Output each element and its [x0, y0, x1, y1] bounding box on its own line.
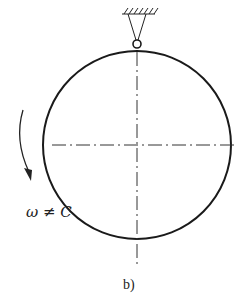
pin-joint-icon [133, 40, 141, 48]
rotation-arrow-icon [20, 110, 32, 181]
fixed-support-icon [122, 8, 158, 40]
angular-velocity-label: ω ≠ C [26, 203, 72, 221]
figure-caption: b) [123, 277, 135, 293]
diagram-canvas [0, 0, 243, 301]
